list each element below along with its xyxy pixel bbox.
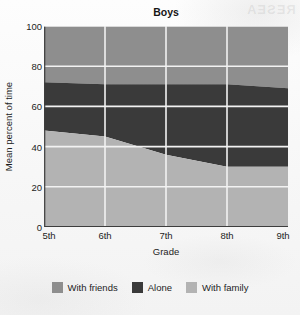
y-axis-tick-labels: 020406080100	[12, 26, 42, 227]
chart-legend: With friendsAloneWith family	[10, 282, 290, 293]
x-tick-label: 9th	[276, 230, 289, 241]
x-tick-label: 5th	[42, 230, 55, 241]
legend-label: Alone	[148, 282, 172, 293]
y-tick-label: 100	[16, 21, 42, 32]
legend-entry[interactable]: Alone	[132, 282, 172, 293]
x-tick-label: 7th	[159, 230, 172, 241]
legend-entry[interactable]: With friends	[52, 282, 118, 293]
y-tick-label: 40	[16, 141, 42, 152]
legend-label: With friends	[68, 282, 118, 293]
legend-swatch-icon	[52, 282, 63, 293]
plot-area	[44, 26, 288, 227]
legend-entry[interactable]: With family	[186, 282, 248, 293]
x-axis-tick-labels: 5th6th7th8th9th	[44, 230, 288, 244]
legend-swatch-icon	[132, 282, 143, 293]
y-tick-label: 60	[16, 101, 42, 112]
x-axis-title: Grade	[44, 246, 288, 257]
stacked-area-plot	[44, 26, 288, 227]
area-chart-figure: Boys Mean percent of time 020406080100 5…	[0, 0, 300, 315]
legend-label: With family	[202, 282, 248, 293]
y-tick-label: 20	[16, 181, 42, 192]
chart-title: Boys	[44, 6, 288, 18]
x-tick-label: 8th	[220, 230, 233, 241]
y-tick-label: 0	[16, 222, 42, 233]
y-tick-label: 80	[16, 61, 42, 72]
x-tick-label: 6th	[98, 230, 111, 241]
legend-swatch-icon	[186, 282, 197, 293]
